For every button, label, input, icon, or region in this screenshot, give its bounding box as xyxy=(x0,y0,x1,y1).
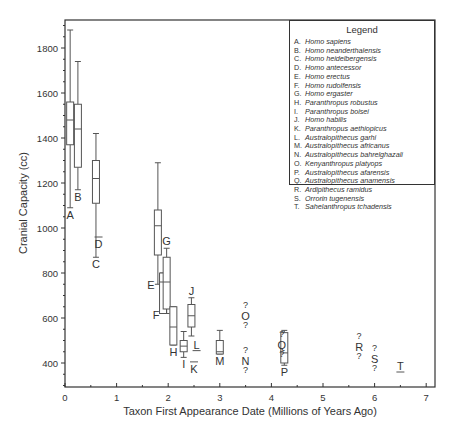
single-label: T xyxy=(397,360,404,372)
y-tick-label: 1400 xyxy=(37,133,58,144)
y-tick-label: 1000 xyxy=(37,223,58,234)
x-tick-label: 7 xyxy=(424,392,429,403)
box-iqr xyxy=(163,257,170,309)
legend-species-name: Homo neanderthalensis xyxy=(305,46,381,55)
y-axis-label: Cranial Capacity (cc) xyxy=(17,152,29,254)
legend-species-name: Australopithecus africanus xyxy=(305,141,389,150)
box-iqr xyxy=(170,307,177,345)
legend-species-name: Homo rudolfensis xyxy=(305,81,361,90)
legend-species-name: Australopithecus garhi xyxy=(305,133,376,142)
x-axis: 01234567 xyxy=(62,383,428,403)
box-series: ABCEFGHIJMP xyxy=(66,30,287,378)
legend-items: A.Homo sapiensB.Homo neanderthalensisC.H… xyxy=(294,38,430,212)
legend-title: Legend xyxy=(294,24,430,35)
x-tick-label: 2 xyxy=(166,392,171,403)
question-mark: ? xyxy=(243,320,248,330)
box-label: P xyxy=(281,366,288,378)
box-label: J xyxy=(189,285,195,297)
legend-item: T.Sahelanthropus tchadensis xyxy=(294,203,430,212)
legend-species-name: Kenyanthropus platyops xyxy=(305,159,382,168)
y-tick-label: 400 xyxy=(42,358,58,369)
x-tick-label: 6 xyxy=(372,392,377,403)
box-iqr xyxy=(74,104,81,167)
box-label: B xyxy=(74,191,81,203)
box-iqr xyxy=(67,102,74,145)
box-G: G xyxy=(162,235,171,313)
y-axis: 40060080010001200140016001800 xyxy=(37,26,65,386)
legend-species-name: Homo habilis xyxy=(305,115,347,124)
box-label: F xyxy=(153,309,160,321)
y-tick-label: 1200 xyxy=(37,178,58,189)
single-D: D xyxy=(95,237,103,250)
question-mark: ? xyxy=(243,300,248,310)
legend-species-name: Homo erectus xyxy=(305,72,350,81)
box-J: J xyxy=(188,285,195,336)
box-B: B xyxy=(74,62,81,203)
legend-species-name: Australopithecus anamensis xyxy=(305,176,395,185)
legend-species-name: Sahelanthropus tchadensis xyxy=(305,202,392,211)
legend-species-name: Australopithecus afarensis xyxy=(305,168,389,177)
box-iqr xyxy=(92,161,99,204)
x-tick-label: 5 xyxy=(320,392,325,403)
uncertain-N: ?N? xyxy=(242,345,250,375)
box-label: G xyxy=(162,235,171,247)
box-label: I xyxy=(182,358,185,370)
legend-species-name: Homo ergaster xyxy=(305,89,353,98)
single-label: D xyxy=(95,238,103,250)
uncertain-R: ?R? xyxy=(355,331,363,361)
question-mark: ? xyxy=(357,351,362,361)
legend-species-name: Australopithecus bahrelghazali xyxy=(305,150,403,159)
legend-species-name: Ardipithecus ramidus xyxy=(305,185,372,194)
uncertain-value-markers: ?O??N??Q??R??S? xyxy=(241,300,378,375)
legend-species-name: Homo heidelbergensis xyxy=(305,54,377,63)
question-mark: ? xyxy=(357,331,362,341)
box-label: M xyxy=(215,355,224,367)
box-label: C xyxy=(92,258,100,270)
x-axis-label: Taxon First Appearance Date (Millions of… xyxy=(123,405,377,417)
legend-species-name: Homo antecessor xyxy=(305,63,361,72)
box-I: I xyxy=(180,332,187,371)
legend: Legend A.Homo sapiensB.Homo neanderthale… xyxy=(289,20,435,185)
question-mark: ? xyxy=(243,345,248,355)
question-mark: ? xyxy=(243,365,248,375)
single-K: K xyxy=(190,362,198,375)
y-tick-label: 600 xyxy=(42,313,58,324)
y-tick-label: 1600 xyxy=(37,88,58,99)
uncertain-O: ?O? xyxy=(241,300,250,330)
single-label: K xyxy=(190,363,198,375)
legend-species-name: Paranthropus boisei xyxy=(305,107,369,116)
legend-species-name: Homo sapiens xyxy=(305,37,351,46)
y-tick-label: 1800 xyxy=(37,43,58,54)
legend-species-name: Orrorin tugenensis xyxy=(305,194,364,203)
question-mark: ? xyxy=(279,329,284,339)
box-label: H xyxy=(169,346,177,358)
box-E: E xyxy=(147,163,161,292)
x-tick-label: 0 xyxy=(62,392,67,403)
box-M: M xyxy=(215,330,224,367)
legend-species-name: Paranthropus aethiopicus xyxy=(305,124,387,133)
uncertain-S: ?S? xyxy=(371,343,378,373)
question-mark: ? xyxy=(372,343,377,353)
box-H: H xyxy=(169,307,177,358)
legend-letter: T. xyxy=(294,203,305,212)
x-tick-label: 3 xyxy=(217,392,222,403)
single-T: T xyxy=(396,360,404,372)
box-label: E xyxy=(147,279,154,291)
x-tick-label: 1 xyxy=(114,392,119,403)
question-mark: ? xyxy=(279,349,284,359)
y-tick-label: 800 xyxy=(42,268,58,279)
single-label: L xyxy=(194,339,200,351)
legend-species-name: Paranthropus robustus xyxy=(305,98,378,107)
box-iqr xyxy=(154,210,161,255)
question-mark: ? xyxy=(372,363,377,373)
box-label: A xyxy=(66,209,74,221)
x-tick-label: 4 xyxy=(269,392,274,403)
single-L: L xyxy=(193,339,201,351)
